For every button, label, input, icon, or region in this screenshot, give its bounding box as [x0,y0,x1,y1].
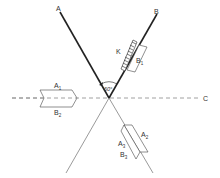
label-a: A [56,5,61,12]
label-b: B [154,8,159,15]
label-b3: B3 [120,151,128,160]
label-c: C [203,95,208,102]
label-k: K [116,48,121,55]
line-b-extension [66,98,109,173]
diagram-canvas: C A B 60° K B1 A1 B2 A2 A3 B3 [0,0,220,178]
left-arrow-box [40,90,77,107]
line-b [109,14,157,98]
angle-label: 60° [104,86,113,92]
label-a1: A1 [54,82,62,91]
angle-arc [101,82,117,84]
label-b2: B2 [54,109,62,118]
label-a3: A3 [118,140,126,149]
label-a2: A2 [141,131,149,140]
